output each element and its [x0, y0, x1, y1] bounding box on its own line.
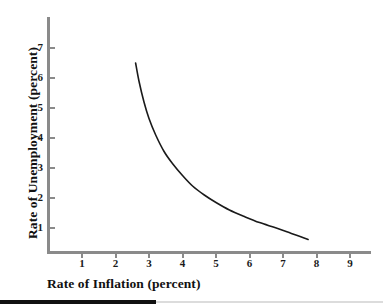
plot-area [0, 0, 383, 306]
y-tick-mark [50, 197, 55, 199]
y-tick-mark [50, 137, 55, 139]
x-tick-label: 2 [108, 258, 124, 269]
x-tick-label: 7 [275, 258, 291, 269]
y-tick-mark [50, 77, 55, 79]
x-axis-title: Rate of Inflation (percent) [47, 276, 201, 292]
y-tick-mark [50, 227, 55, 229]
x-tick-label: 4 [175, 258, 191, 269]
y-axis-line [47, 17, 50, 254]
y-tick-mark [50, 107, 55, 109]
y-axis-title: Rate of Unemployment (percent) [25, 38, 41, 248]
footer-rule-dark [0, 300, 156, 304]
x-axis-line [47, 251, 371, 254]
phillips-curve-line [136, 63, 309, 239]
x-tick-label: 1 [74, 258, 90, 269]
x-tick-label: 8 [309, 258, 325, 269]
y-tick-mark [50, 47, 55, 49]
x-tick-label: 5 [208, 258, 224, 269]
x-tick-label: 6 [242, 258, 258, 269]
footer-rule-light [156, 301, 383, 303]
y-tick-mark [50, 167, 55, 169]
x-tick-label: 9 [342, 258, 358, 269]
x-tick-label: 3 [141, 258, 157, 269]
phillips-curve-chart: 1234567123456789 Rate of Inflation (perc… [0, 0, 383, 306]
